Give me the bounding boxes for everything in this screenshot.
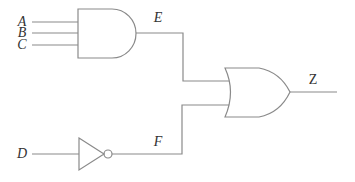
input-label-d: D	[17, 147, 27, 161]
logic-circuit-diagram: A B C D E F Z	[0, 0, 355, 182]
or-gate	[225, 68, 290, 117]
not-gate	[79, 138, 104, 170]
wire-e	[136, 33, 229, 81]
not-bubble	[104, 150, 112, 158]
circuit-drawing	[0, 0, 355, 182]
and-gate	[78, 9, 136, 58]
output-label-z: Z	[309, 73, 318, 87]
input-label-c: C	[17, 38, 26, 52]
signal-label-f: F	[154, 135, 163, 149]
signal-label-e: E	[154, 11, 163, 25]
wire-f	[112, 105, 229, 154]
